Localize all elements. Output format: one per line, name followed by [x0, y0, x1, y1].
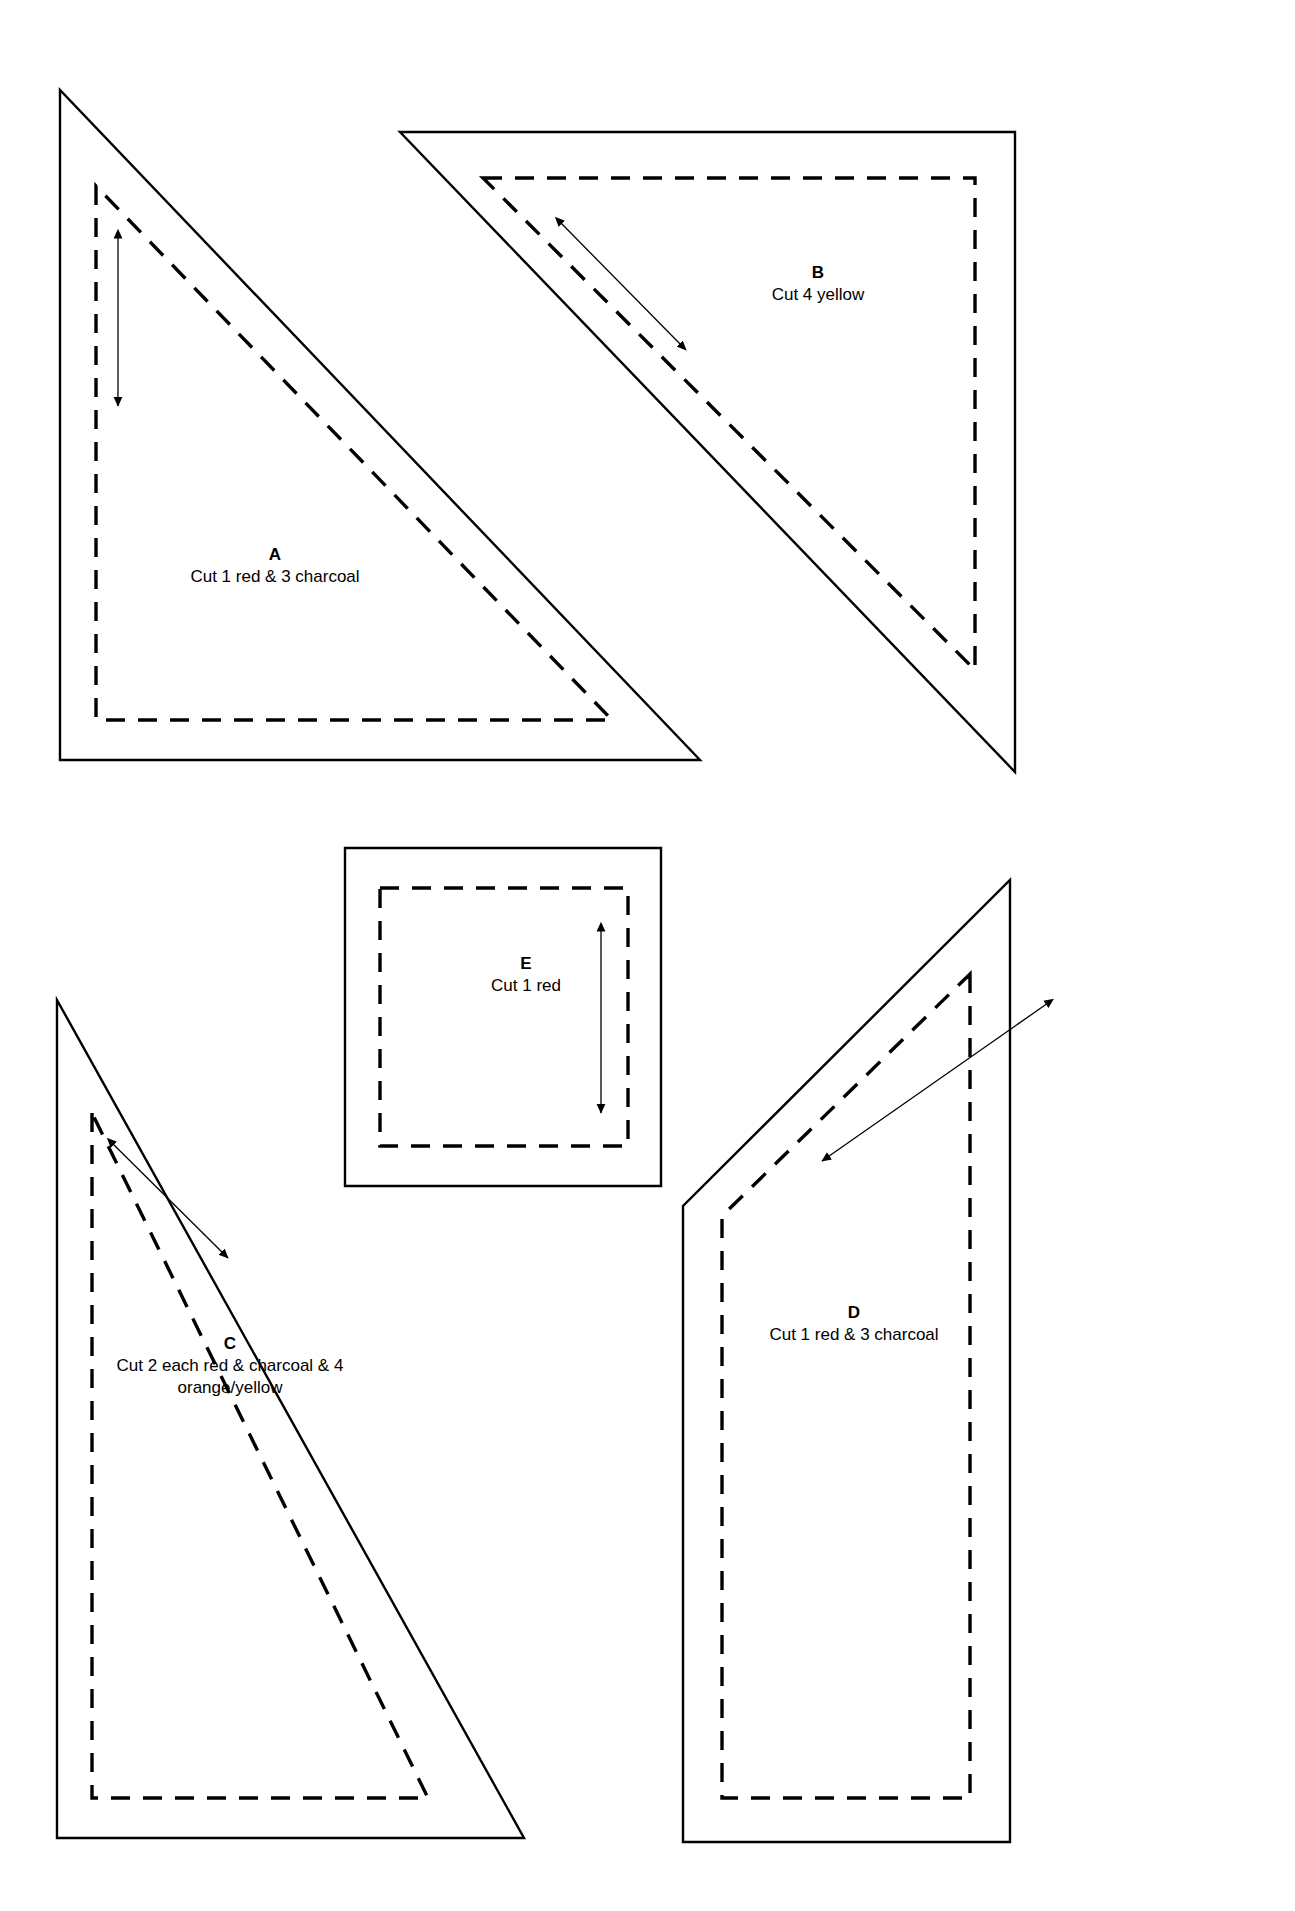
piece-c-description-line2: orange/yellow	[80, 1377, 380, 1399]
piece-d-group	[683, 880, 1048, 1842]
piece-e-letter: E	[426, 953, 626, 975]
piece-d-description: Cut 1 red & 3 charcoal	[754, 1324, 954, 1346]
piece-d-label: D Cut 1 red & 3 charcoal	[754, 1302, 954, 1346]
pattern-drawing	[0, 0, 1295, 1911]
piece-c-cut-line	[57, 1000, 524, 1838]
piece-a-group	[60, 90, 700, 760]
piece-c-label: C Cut 2 each red & charcoal & 4 orange/y…	[80, 1333, 380, 1398]
pattern-sheet: A Cut 1 red & 3 charcoal B Cut 4 yellow …	[0, 0, 1295, 1911]
piece-c-letter: C	[80, 1333, 380, 1355]
piece-d-letter: D	[754, 1302, 954, 1324]
piece-a-label: A Cut 1 red & 3 charcoal	[175, 544, 375, 588]
piece-e-group	[345, 848, 661, 1186]
piece-d-grain-arrow	[822, 1003, 1048, 1161]
piece-d-cut-line	[683, 880, 1010, 1842]
piece-c-description-line1: Cut 2 each red & charcoal & 4	[80, 1355, 380, 1377]
piece-b-seam-line	[483, 178, 975, 670]
piece-b-grain-arrow	[560, 222, 686, 350]
piece-a-cut-line	[60, 90, 700, 760]
piece-d-seam-line	[722, 974, 970, 1798]
piece-b-cut-line	[400, 132, 1015, 772]
piece-c-group	[57, 1000, 524, 1838]
piece-b-label: B Cut 4 yellow	[718, 262, 918, 306]
piece-a-letter: A	[175, 544, 375, 566]
piece-b-group	[400, 132, 1015, 772]
piece-b-description: Cut 4 yellow	[718, 284, 918, 306]
piece-e-description: Cut 1 red	[426, 975, 626, 997]
piece-e-seam-line	[380, 888, 628, 1146]
piece-c-grain-arrow	[112, 1143, 228, 1258]
piece-a-seam-line	[96, 186, 612, 720]
piece-c-seam-line	[92, 1113, 428, 1798]
piece-a-description: Cut 1 red & 3 charcoal	[175, 566, 375, 588]
piece-e-cut-line	[345, 848, 661, 1186]
piece-e-label: E Cut 1 red	[426, 953, 626, 997]
piece-b-letter: B	[718, 262, 918, 284]
